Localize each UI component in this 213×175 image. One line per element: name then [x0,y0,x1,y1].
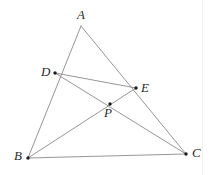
point-marker-e [134,86,137,89]
figure-canvas [0,0,213,175]
point-marker-d [53,71,56,74]
point-marker-c [184,152,187,155]
vertex-label-c: C [192,146,201,159]
geometry-figure: ADEPBC [0,0,213,175]
page-edge-line [202,0,203,175]
vertex-label-d: D [41,65,50,78]
segment-bc [28,154,186,158]
vertex-label-a: A [77,8,85,21]
segments-layer [28,26,186,158]
segment-ab [28,26,81,158]
point-marker-b [26,156,29,159]
vertex-label-b: B [14,149,22,162]
vertex-label-e: E [141,81,149,94]
vertex-label-p: P [104,106,112,119]
segment-be [28,88,136,158]
